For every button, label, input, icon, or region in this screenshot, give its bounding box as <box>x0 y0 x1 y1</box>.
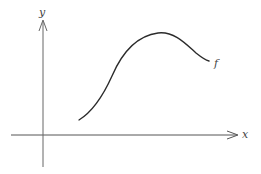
function-graph: y x f <box>0 0 261 174</box>
y-axis <box>39 20 47 167</box>
x-axis-label: x <box>242 128 249 141</box>
x-axis <box>11 131 238 139</box>
function-curve-f <box>79 33 209 120</box>
curve-label-f: f <box>213 57 220 70</box>
y-axis-label: y <box>38 6 46 19</box>
